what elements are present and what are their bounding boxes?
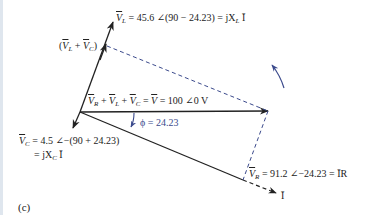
vl-tail: Ī bbox=[239, 12, 245, 23]
sum-rest: = 100 ∠0 V bbox=[157, 95, 208, 106]
sum-eq: = bbox=[140, 95, 151, 106]
vc2-tail: Ī bbox=[57, 149, 63, 160]
v-total-phasor bbox=[80, 111, 268, 112]
vlvc-close: ) bbox=[94, 40, 97, 51]
sum-p2: + bbox=[119, 95, 130, 106]
vr-expr: = 91.2 ∠−24.23 = ĪR bbox=[259, 168, 347, 179]
vl-label: VL = 45.6 ∠(90 − 24.23) = jXL Ī bbox=[116, 12, 245, 27]
panel-label: (c) bbox=[18, 202, 30, 213]
sum-p1: + bbox=[98, 95, 109, 106]
phi-label: ϕ = 24.23 bbox=[140, 117, 178, 128]
rotation-direction-arrow bbox=[272, 65, 284, 88]
vc2-expr: = jX bbox=[34, 149, 52, 160]
vl-plus-vc-label: (VL + VC) bbox=[59, 40, 97, 55]
vc-phasor bbox=[73, 112, 80, 128]
vr-label: VR = 91.2 ∠−24.23 = ĪR bbox=[249, 168, 347, 183]
vlvc-mid: + bbox=[72, 40, 83, 51]
sum-label: VR + VL + VC = V = 100 ∠0 V bbox=[88, 95, 208, 110]
phi-arc-arrow bbox=[131, 113, 134, 127]
vl-plus-vc-marker bbox=[100, 44, 106, 60]
vc-label-line2: = jXC Ī bbox=[34, 149, 63, 164]
vc-label-line1: VC = 4.5 ∠−(90 + 24.23) bbox=[19, 135, 119, 150]
i-label: Ī bbox=[281, 190, 284, 201]
vl-expr: = 45.6 ∠(90 − 24.23) = jX bbox=[126, 12, 235, 23]
vc-expr: = 4.5 ∠−(90 + 24.23) bbox=[30, 135, 119, 146]
